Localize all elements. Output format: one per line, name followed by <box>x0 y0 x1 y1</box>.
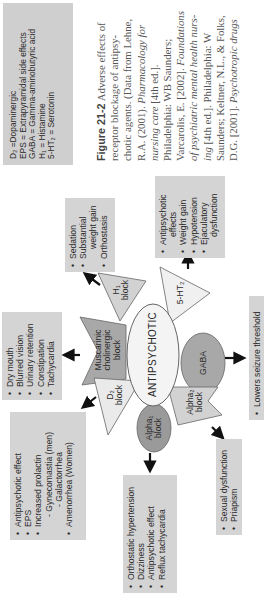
alpha2-block-label: Alpha₂ block <box>186 387 205 417</box>
effect-item: Antipsychotic effect <box>13 417 23 535</box>
caption-title: Psychotropic drugs <box>227 19 239 103</box>
d2-line2: block <box>115 383 124 407</box>
h1-effects-box: Sedation Substantial weight gain Orthost… <box>65 198 115 272</box>
effect-item: Urinary retention <box>25 317 35 395</box>
effect-item: Tachycardia <box>46 317 56 395</box>
alpha1-block-label: Alpha₁ block <box>145 410 164 446</box>
alpha2-effects-box: Sexual dysfunction Priapism <box>216 439 242 535</box>
effect-subitem: - Gynecomastia (men) <box>44 417 54 535</box>
figure-canvas: ANTIPSYCHOTIC Muscarinic cholinergic blo… <box>0 0 264 593</box>
caption-line: chotic agents. (Data from Lehne, <box>121 0 134 161</box>
caption-line: Philadelphia: WB Saunders; <box>161 0 174 161</box>
caption-title: of psychiatric mental health nurs- <box>187 15 199 161</box>
figure-caption: Figure 21-2 Adverse effects of receptor … <box>95 0 240 161</box>
effect-item: Sedation <box>68 203 78 267</box>
effect-item: Orthostatic hypertension <box>126 480 136 588</box>
alpha1-line2: block <box>154 410 163 446</box>
caption-line: [4th ed.]. Philadelphia: W <box>201 33 213 145</box>
effect-item: Antipsychotic effect <box>146 480 156 588</box>
alpha2-line2: block <box>195 387 204 417</box>
ht2-block-label: 5-HT₂ <box>176 277 185 309</box>
effect-item: Hypotension <box>189 181 199 253</box>
arrow-alpha2 <box>212 427 220 435</box>
effect-item: Dry mouth <box>5 317 15 395</box>
caption-title: Pharmacology for <box>135 25 147 104</box>
effect-item: Weight gain <box>178 181 188 253</box>
d2-effects-box: Antipsychotic effect EPS Increased prola… <box>10 412 86 540</box>
effect-item: Antipsychotic <box>158 181 168 253</box>
effect-item: Priapism <box>229 444 239 530</box>
effect-item: Substantial <box>78 203 88 267</box>
muscarinic-line3: block <box>113 325 122 375</box>
ht2-effects-box: Antipsychotic effects Weight gain Hypote… <box>155 176 225 258</box>
caption-line: R.A. (2001). <box>135 106 147 161</box>
effect-item: Blurred vision <box>15 317 25 395</box>
effect-item: Constipation <box>36 317 46 395</box>
arrow-d2 <box>86 397 96 405</box>
caption-line: receptor blockage of antipsy- <box>108 0 121 161</box>
effect-subitem: - Galactorrhea <box>54 417 64 535</box>
caption-title: ing <box>201 147 213 161</box>
arrow-h1 <box>88 276 100 285</box>
effect-item: Reflux tachycardia <box>157 480 167 588</box>
effect-item: Increased prolactin <box>33 417 43 535</box>
effect-item: Ejaculatory <box>199 181 209 253</box>
effect-item: Orthostasis <box>99 203 109 267</box>
effect-item: Dizziness <box>136 480 146 588</box>
effect-item: Amenorrhea (Women) <box>64 417 74 535</box>
caption-title: nursing care <box>148 107 160 161</box>
caption-line: Varcarolis, E. [2002]. <box>174 68 186 161</box>
effect-item: Sexual dysfunction <box>219 444 229 530</box>
caption-title: Foundations <box>174 11 186 66</box>
figure-number: Figure 21-2 <box>95 103 107 161</box>
caption-line: D.G. [2001]. <box>227 106 239 161</box>
muscarinic-block-label: Muscarinic cholinergic block <box>94 325 122 375</box>
d2-block-label: D₂ block <box>106 383 125 407</box>
effect-item-cont: effects <box>168 181 178 253</box>
h1-block-label: H₁ block <box>112 277 131 303</box>
legend-item: 5-HT₂ = Serotonin <box>47 9 57 159</box>
alpha1-effects-box: Orthostatic hypertension Dizziness Antip… <box>123 475 177 593</box>
caption-line: [4th ed.]. <box>148 65 160 104</box>
effect-item-cont: weight gain <box>88 203 98 267</box>
h1-line2: block <box>121 277 130 303</box>
gaba-effects-box: Lowers seizure threshold <box>249 296 264 420</box>
center-label: ANTIPSYCHOTIC <box>147 312 158 397</box>
caption-line: Adverse effects of <box>95 22 107 101</box>
gaba-block-label: GABA <box>199 345 208 381</box>
abbreviation-legend: D₂ =Dopaminergic EPS = Extrapyramidal si… <box>3 3 73 165</box>
effect-item: Lowers seizure threshold <box>252 301 262 415</box>
effect-item-cont: dysfunction <box>209 181 219 253</box>
effect-item: EPS <box>23 417 33 535</box>
caption-line: Saunders; Keltner, N.L., & Folks, <box>214 0 227 161</box>
muscarinic-effects-box: Dry mouth Blurred vision Urinary retenti… <box>2 312 62 400</box>
